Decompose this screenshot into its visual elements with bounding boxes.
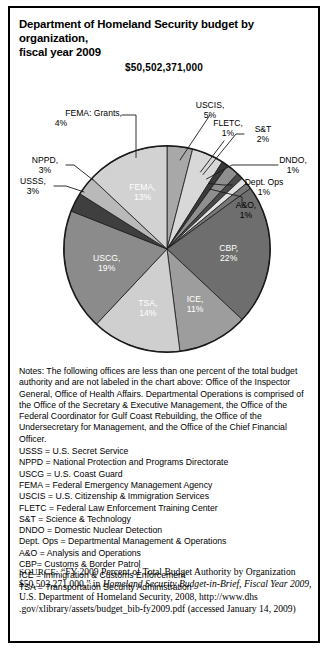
callout-st-name: S&T [255,124,272,134]
chart-total-label: $50,502,371,000 [10,62,318,73]
abbreviation-row: FLETC = Federal Law Enforcement Training… [19,503,313,514]
abbreviation-row: NPPD = National Protection and Programs … [19,457,313,468]
callout-ao: A&O, 1% [228,200,264,220]
callout-usss-pct: 3% [12,186,54,196]
notes-block: Notes: The following offices are less th… [19,366,313,593]
abbreviation-row: S&T = Science & Technology [19,514,313,525]
callout-usss: USSS, 3% [12,176,54,196]
abbreviation-row: A&O = Analysis and Operations [19,548,313,559]
callout-st-pct: 2% [246,134,280,144]
callout-ao-pct: 1% [228,210,264,220]
pie-svg [62,144,272,354]
source-part-2: U.S. Department of Homeland Security, 20… [19,591,296,614]
callout-nppd-name: NPPD, [32,155,58,165]
callout-uscis-name: USCIS, [196,100,225,110]
pie-chart: $50,502,371,000 CBP,22%ICE,11%TSA,14%USC… [10,52,318,357]
abbreviation-row: FEMA = Federal Emergency Management Agen… [19,480,313,491]
abbreviation-row: Dept. Ops = Departmental Management & Op… [19,536,313,547]
callout-dept-ops-pct: 1% [236,187,292,197]
figure-frame: Department of Homeland Security budget b… [8,6,320,643]
callout-usss-name: USSS, [20,176,46,186]
abbreviation-row: USCIS = U.S. Citizenship & Immigration S… [19,491,313,502]
abbreviation-row: DNDO = Domestic Nuclear Detection [19,525,313,536]
callout-fletc-pct: 1% [208,128,248,138]
callout-dept-ops: Dept. Ops 1% [236,177,292,197]
pie-graphic: CBP,22%ICE,11%TSA,14%USCG,19%FEMA,13% [62,144,272,354]
source-italic-title: Homeland Security Budget-in-Brief, Fisca… [103,578,312,589]
title-line-1: Department of Homeland Security budget b… [19,17,309,45]
callout-st: S&T 2% [246,124,280,144]
notes-paragraph: Notes: The following offices are less th… [19,366,313,445]
abbreviation-row: USCG = U.S. Coast Guard [19,469,313,480]
callout-nppd-pct: 3% [24,165,66,175]
callout-dndo-pct: 1% [272,165,314,175]
callout-fema-grants-pct: 4% [18,118,122,128]
callout-fema-grants: FEMA: Grants, 4% [18,108,122,128]
callout-nppd: NPPD, 3% [24,155,66,175]
callout-dndo: DNDO, 1% [272,155,314,175]
source-label: SOURCE: [19,567,59,577]
callout-fletc: FLETC, 1% [208,118,248,138]
callout-dndo-name: DNDO, [279,155,307,165]
callout-fletc-name: FLETC, [213,118,243,128]
callout-dept-ops-name: Dept. Ops [245,177,284,187]
figure-inner: Department of Homeland Security budget b… [10,8,318,641]
callout-ao-name: A&O, [236,200,257,210]
source-citation: SOURCE: “FY 2009 Percent of Total Budget… [19,566,313,616]
abbreviation-row: USSS = U.S. Secret Service [19,446,313,457]
callout-fema-grants-name: FEMA: Grants, [65,108,122,118]
